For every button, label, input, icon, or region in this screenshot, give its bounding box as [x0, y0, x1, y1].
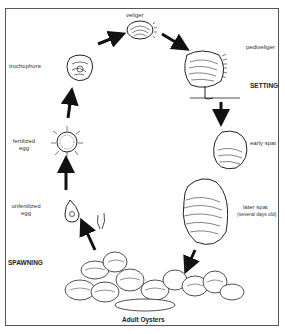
fertilized-egg-icon — [51, 126, 83, 157]
label-setting: SETTING — [250, 82, 278, 89]
veliger-icon — [127, 21, 157, 39]
label-adult-oysters: Adult Oysters — [122, 316, 165, 323]
sperm-icon — [97, 213, 104, 229]
label-later-spat: later spat — [243, 204, 268, 211]
label-fertilized-egg: egg — [10, 145, 38, 152]
label-veliger: veliger — [126, 12, 144, 19]
label-early-spat: early spat — [250, 140, 276, 147]
label-pediveliger: pediveliger — [246, 44, 275, 51]
later-spat-icon — [183, 179, 227, 245]
label-unfertilized: unfertilized — [8, 203, 44, 210]
label-trochophore: trochophore — [9, 63, 41, 70]
trochophore-icon — [67, 55, 93, 81]
label-unfertilized-egg: egg — [8, 210, 44, 217]
label-spawning: SPAWNING — [8, 259, 43, 266]
adult-oysters-icon — [65, 252, 244, 311]
unfertilized-egg-icon — [65, 200, 79, 222]
label-fertilized: fertilized — [10, 138, 38, 145]
life-cycle-illustration — [0, 0, 285, 334]
label-later-spat-note: (several days old) — [237, 211, 276, 218]
pediveliger-icon — [185, 51, 240, 99]
early-spat-icon — [214, 131, 247, 169]
